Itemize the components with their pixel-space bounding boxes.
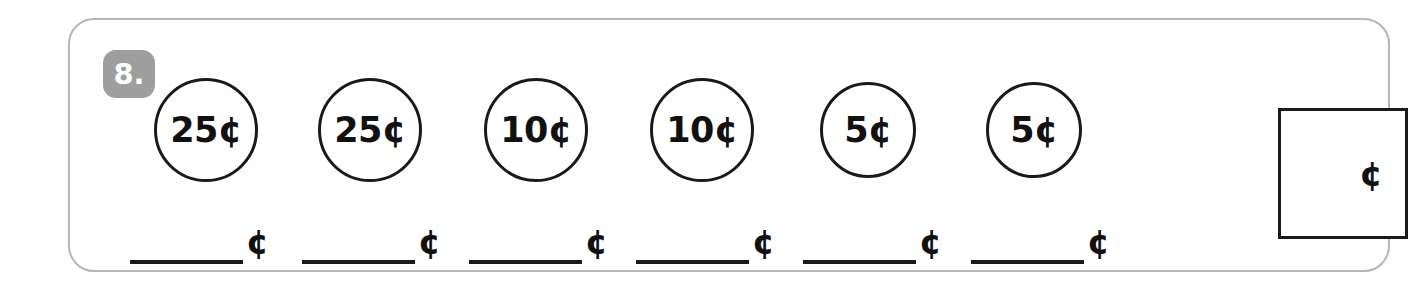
blank-line[interactable] (803, 260, 916, 265)
answer-blank[interactable]: ¢ (636, 218, 796, 270)
answer-blank[interactable]: ¢ (803, 218, 963, 270)
blank-line[interactable] (302, 260, 415, 265)
coin-circle: 5¢ (820, 82, 916, 178)
answer-blank[interactable]: ¢ (469, 218, 629, 270)
problem-card: 8. 25¢ 25¢ 10¢ 10¢ 5¢ 5¢ ¢ ¢ ¢ ¢ ¢ (68, 18, 1390, 272)
blank-line[interactable] (971, 260, 1084, 265)
coin-circle: 10¢ (650, 78, 754, 182)
coin-circle: 25¢ (318, 78, 422, 182)
blank-line[interactable] (469, 260, 582, 265)
problem-number-badge: 8. (103, 50, 155, 98)
coin-circle: 10¢ (484, 78, 588, 182)
cent-symbol: ¢ (752, 226, 775, 259)
total-answer-box[interactable]: ¢ (1278, 108, 1408, 239)
coin-row: 25¢ 25¢ 10¢ 10¢ 5¢ 5¢ (154, 78, 1174, 188)
blank-line[interactable] (636, 260, 749, 265)
cent-symbol: ¢ (585, 226, 608, 259)
blank-line[interactable] (130, 260, 243, 265)
cent-symbol: ¢ (919, 226, 942, 259)
cent-symbol: ¢ (246, 226, 269, 259)
cent-symbol: ¢ (1087, 226, 1110, 259)
coin-circle: 5¢ (986, 82, 1082, 178)
cent-symbol: ¢ (418, 226, 441, 259)
cent-symbol: ¢ (1359, 157, 1383, 191)
answer-blank-row: ¢ ¢ ¢ ¢ ¢ ¢ (130, 218, 1170, 270)
answer-blank[interactable]: ¢ (302, 218, 462, 270)
coin-circle: 25¢ (154, 78, 258, 182)
answer-blank[interactable]: ¢ (971, 218, 1131, 270)
answer-blank[interactable]: ¢ (130, 218, 290, 270)
